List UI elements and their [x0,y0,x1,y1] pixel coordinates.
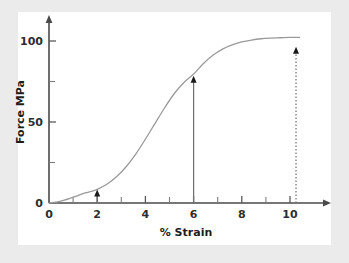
x-tick-label-2: 2 [93,208,101,221]
arrow-mid-strain-head [191,76,197,83]
y-axis-ticks [49,41,56,163]
x-tick-label-8: 8 [238,208,246,221]
y-tick-label-0: 0 [35,197,43,210]
x-tick-label-4: 4 [142,208,150,221]
arrow-high-strain-head [293,47,299,54]
y-tick-label-100: 100 [20,35,43,48]
x-axis-title: % Strain [160,226,212,239]
x-axis-ticks [73,196,290,203]
x-tick-label-0: 0 [45,208,53,221]
y-axis-title: Force MPa [14,80,27,144]
y-axis [46,15,53,203]
y-axis-arrowhead [46,15,53,23]
x-axis-arrowhead [323,200,331,207]
y-tick-label-50: 50 [28,116,44,129]
x-tick-label-10: 10 [282,208,298,221]
x-axis [49,200,331,207]
x-tick-label-6: 6 [190,208,198,221]
stress-strain-chart: 100 50 0 0 2 4 6 8 10 % Strain Force MPa [0,0,349,263]
force-strain-curve [49,37,300,203]
x-axis-tick-labels: 0 2 4 6 8 10 [45,208,298,221]
